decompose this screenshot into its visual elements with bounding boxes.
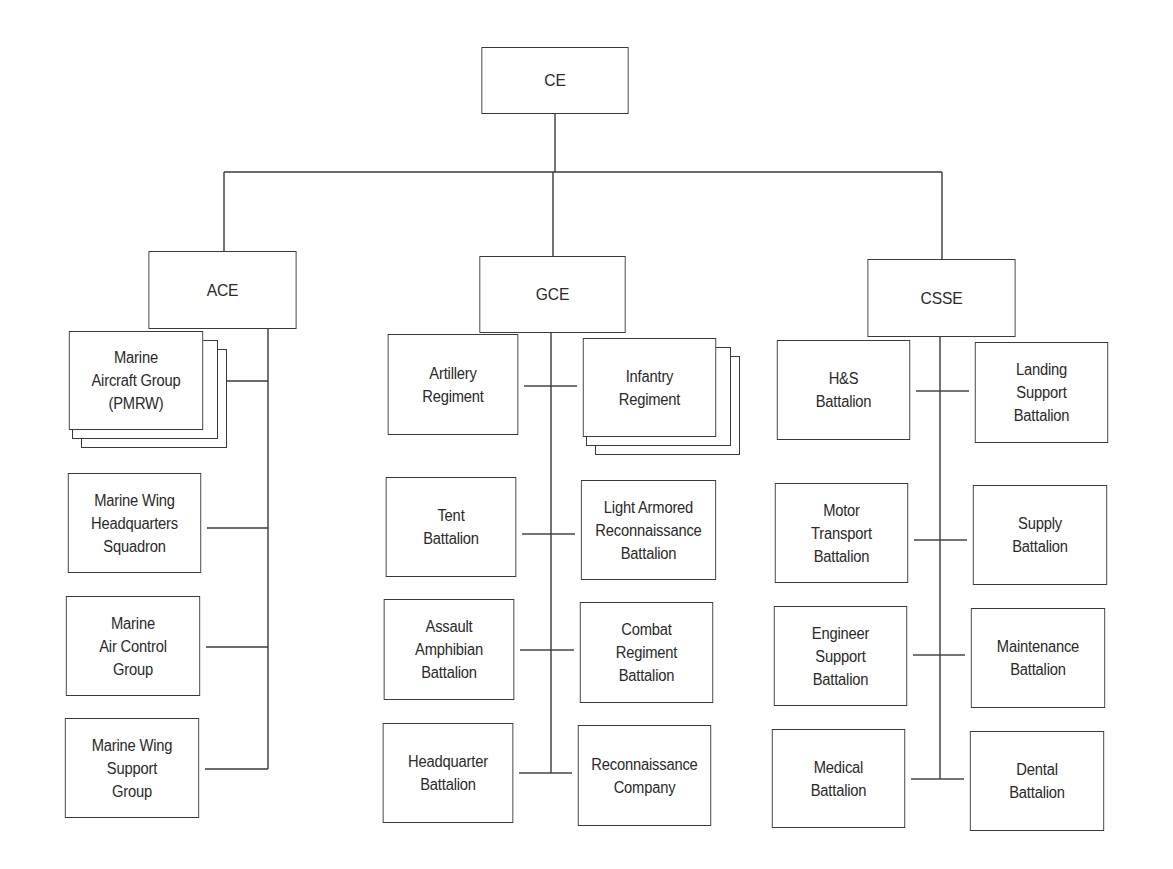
node-label: Maintenance Battalion [997,635,1079,681]
node-label: Medical Battalion [811,756,867,802]
unit-box-marine-wing-headquarters-squadron: Marine Wing Headquarters Squadron [68,473,201,573]
unit-box-light-armored-reconnaissance-battalion: Light Armored Reconnaissance Battalion [581,480,716,580]
node-label: H&S Battalion [816,367,872,413]
node-label: CSSE [921,287,963,310]
unit-box-marine-wing-support-group: Marine Wing Support Group [65,718,199,818]
unit-box-hands-battalion: H&S Battalion [777,340,910,440]
unit-box-medical-battalion: Medical Battalion [772,729,905,828]
unit-box-tent-battalion: Tent Battalion [386,477,517,577]
node-label: Motor Transport Battalion [811,499,872,568]
node-label: Marine Aircraft Group (PMRW) [91,346,180,415]
node-label: Marine Air Control Group [99,612,167,681]
node-label: Engineer Support Battalion [812,622,869,691]
unit-box-combat-regiment-battalion: Combat Regiment Battalion [580,602,713,703]
org-chart: Marine Aircraft Group (PMRW)Marine Wing … [0,0,1173,869]
node-label: Assault Amphibian Battalion [415,615,483,684]
unit-box-assault-amphibian-battalion: Assault Amphibian Battalion [384,599,515,700]
node-label: Dental Battalion [1009,758,1065,804]
unit-box-motor-transport-battalion: Motor Transport Battalion [775,483,908,583]
unit-box-marine-aircraft-group-pmrw: Marine Aircraft Group (PMRW) [69,331,203,430]
element-box-ace: ACE [148,251,296,329]
unit-box-infantry-regiment: Infantry Regiment [583,338,716,437]
element-box-csse: CSSE [867,259,1015,337]
element-box-gce: GCE [479,256,625,333]
unit-box-headquarter-battalion: Headquarter Battalion [383,723,514,823]
unit-box-maintenance-battalion: Maintenance Battalion [971,608,1105,708]
node-label: Artillery Regiment [422,362,484,408]
node-label: ACE [207,279,239,302]
node-label: Reconnaissance Company [591,753,697,799]
unit-box-engineer-support-battalion: Engineer Support Battalion [774,606,907,706]
node-label: Marine Wing Headquarters Squadron [91,489,178,558]
unit-box-landing-support-battalion: Landing Support Battalion [975,342,1108,443]
node-label: GCE [536,283,569,306]
node-label: Tent Battalion [423,504,479,550]
unit-box-artillery-regiment: Artillery Regiment [388,334,519,435]
node-label: Landing Support Battalion [1014,358,1070,427]
node-label: CE [544,69,565,92]
node-label: Marine Wing Support Group [92,734,173,803]
node-label: Combat Regiment Battalion [616,618,678,687]
node-label: Light Armored Reconnaissance Battalion [595,496,701,565]
unit-box-reconnaissance-company: Reconnaissance Company [578,725,711,826]
node-label: Supply Battalion [1012,512,1068,558]
unit-box-supply-battalion: Supply Battalion [973,485,1107,585]
node-label: Headquarter Battalion [408,750,488,796]
unit-box-dental-battalion: Dental Battalion [970,731,1104,831]
node-label: Infantry Regiment [619,365,681,411]
root-box-ce: CE [481,47,628,114]
unit-box-marine-air-control-group: Marine Air Control Group [66,596,200,696]
